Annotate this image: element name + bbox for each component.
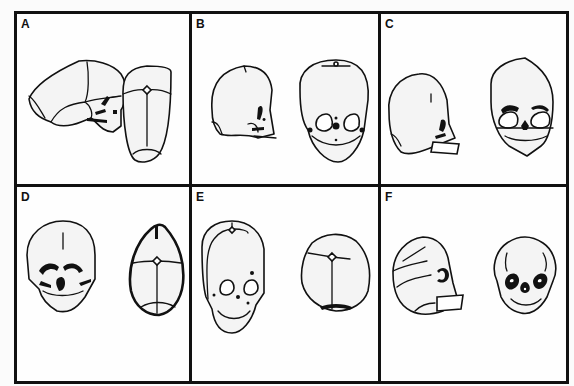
frontal-skull-d: [27, 221, 95, 312]
panel-c-drawing: [381, 14, 566, 184]
frontal-skull-b: [300, 60, 368, 162]
panel-e: E: [192, 187, 378, 381]
panel-b: B: [192, 14, 378, 184]
panel-b-drawing: [192, 14, 378, 184]
figure-frame: A B: [14, 11, 569, 384]
panel-e-drawing: [192, 187, 378, 381]
panel-a-drawing: [17, 14, 189, 184]
panel-a: A: [17, 14, 189, 184]
panel-c: C: [381, 14, 566, 184]
panel-d-drawing: [17, 187, 189, 381]
frontal-skull-e: [202, 221, 264, 333]
panel-f-drawing: [381, 187, 566, 381]
panel-d: D: [17, 187, 189, 381]
panel-f: F: [381, 187, 566, 381]
lateral-skull-c: [389, 74, 459, 154]
lateral-skull-b: [212, 66, 276, 138]
superior-skull-a: [123, 66, 171, 162]
lateral-skull-a: [29, 61, 126, 132]
lateral-skull-f: [393, 237, 463, 314]
frontal-skull-c: [491, 58, 553, 156]
frontal-skull-f: [494, 237, 556, 313]
superior-skull-d: [130, 225, 183, 315]
superior-skull-e: [301, 234, 369, 311]
